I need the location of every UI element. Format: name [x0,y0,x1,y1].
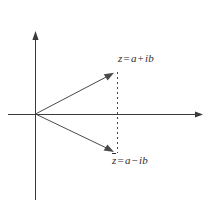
figure-canvas [0,0,210,204]
label-z-equals: = [122,52,130,64]
label-z-conjugate-real-part: a [125,154,131,166]
label-z-conjugate-equals: = [116,154,124,166]
imaginary-axis-arrowhead [32,31,38,40]
label-z-conjugate: z=a−ib [112,153,148,166]
label-z-real-part: a [131,52,137,64]
label-z-conjugate-variable: z [112,153,116,166]
complex-plane-figure: z=a+ib z=a−ib [0,0,210,204]
label-z-conjugate-imaginary-part: ib [139,154,148,166]
label-z-conjugate-operator: − [131,154,139,166]
vector-z-arrowhead [104,73,114,81]
vector-z-conjugate-line [36,114,110,149]
vector-z-conjugate-arrowhead [104,144,114,152]
label-z-imaginary-part: ib [145,52,154,64]
real-axis-arrowhead [195,111,203,117]
vector-z-line [36,76,110,115]
label-z: z=a+ib [118,52,154,64]
label-z-operator: + [137,52,145,64]
